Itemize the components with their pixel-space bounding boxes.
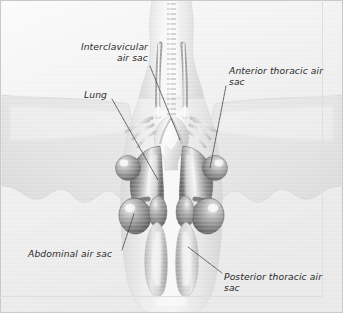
abdominal-air-sac-label: Abdominal air sac: [28, 249, 128, 260]
lung-label: Lung: [40, 90, 107, 101]
anterior-thoracic-air-sac-label: Anterior thoracic air sac: [229, 66, 339, 87]
posterior-thoracic-air-sac-label: Posterior thoracic air sac: [224, 272, 336, 293]
interclavicular-air-sac-label: Interclavicular air sac: [30, 42, 148, 63]
anatomy-figure: Interclavicular air sac Lung Anterior th…: [0, 0, 343, 313]
